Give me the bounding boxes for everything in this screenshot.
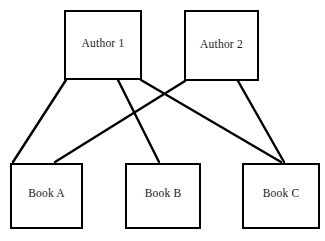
node-book-c[interactable]: Book C [242,163,320,229]
node-author-2-label: Author 2 [200,39,243,51]
node-author-1[interactable]: Author 1 [64,10,142,80]
node-author-2[interactable]: Author 2 [184,10,259,81]
node-author-1-label: Author 1 [82,38,125,50]
diagram-canvas: Author 1 Author 2 Book A Book B Book C [0,0,325,241]
node-book-a[interactable]: Book A [10,163,83,229]
node-book-c-label: Book C [263,188,300,200]
edge-author1-bookb [118,80,159,162]
node-book-a-label: Book A [28,188,65,200]
node-book-b-label: Book B [145,188,182,200]
edge-author2-booka [55,81,185,162]
node-book-b[interactable]: Book B [125,163,201,229]
edge-author1-booka [13,80,66,162]
